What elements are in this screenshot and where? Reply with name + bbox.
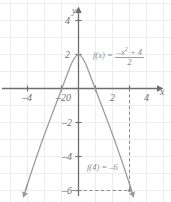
y-tick-label-minus6: –6 bbox=[62, 186, 72, 196]
function-equation-fraction: –x2 + 4 2 bbox=[115, 46, 144, 67]
function-equation-numerator: –x2 + 4 bbox=[115, 46, 144, 58]
numerator-suffix: + 4 bbox=[130, 47, 142, 57]
y-tick-label-minus2: –2 bbox=[62, 118, 72, 128]
y-tick-label-2: 2 bbox=[65, 50, 70, 60]
function-equation-label: f(x) = –x2 + 4 2 bbox=[93, 46, 144, 67]
numerator-exponent: 2 bbox=[125, 46, 128, 52]
graph-figure: y x 4 2 –2 –4 –6 –4 –2 0 2 4 f(x) = –x2 … bbox=[0, 0, 171, 202]
marked-point-4-minus6 bbox=[128, 189, 131, 192]
x-axis-label: x bbox=[160, 88, 164, 98]
function-equation-denominator: 2 bbox=[115, 58, 144, 67]
y-tick-label-minus4: –4 bbox=[62, 152, 72, 162]
y-tick-label-4: 4 bbox=[65, 16, 70, 26]
x-tick-label-minus4: –4 bbox=[22, 93, 32, 103]
x-tick-label-4: 4 bbox=[144, 93, 149, 103]
x-tick-label-minus2: –2 bbox=[56, 93, 66, 103]
evaluation-label: f(4) = –6 bbox=[87, 163, 118, 172]
x-tick-label-2: 2 bbox=[110, 93, 115, 103]
function-equation-lhs: f(x) = bbox=[93, 50, 113, 60]
numerator-prefix: –x bbox=[117, 47, 125, 57]
y-axis-label: y bbox=[72, 7, 76, 17]
origin-label: 0 bbox=[66, 93, 71, 103]
